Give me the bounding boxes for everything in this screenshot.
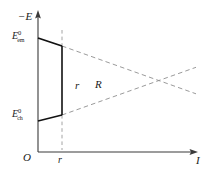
load-resistance-label: R <box>95 79 102 90</box>
solid-characteristic-lines <box>38 38 62 121</box>
emf-discharge-superscript: 0 <box>18 107 21 114</box>
y-axis <box>35 10 41 152</box>
emf-discharge-subscript: ch <box>17 115 22 121</box>
figure-graphic <box>0 0 212 175</box>
internal-resistance-label: r <box>75 80 79 91</box>
x-axis-label: I <box>196 155 200 166</box>
emf-discharge-label: E0ch <box>12 109 27 119</box>
current-tick-label: r <box>58 155 62 165</box>
dashed-extension-lines <box>62 46 196 115</box>
figure-container: −E I O E0em E0ch r R r <box>0 0 212 175</box>
emf-charge-subscript: em <box>17 37 24 43</box>
emf-charge-superscript: 0 <box>18 29 21 36</box>
origin-label: O <box>23 152 31 163</box>
emf-charge-label: E0em <box>12 31 28 41</box>
y-axis-label: −E <box>18 11 32 22</box>
